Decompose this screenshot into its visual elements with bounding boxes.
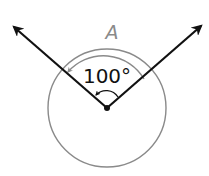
angle-label: 100° <box>83 64 131 88</box>
angle-diagram: A 100° <box>0 0 209 176</box>
arc-label: A <box>104 21 119 43</box>
vertex-point <box>104 105 110 111</box>
angle-arc <box>96 91 118 97</box>
